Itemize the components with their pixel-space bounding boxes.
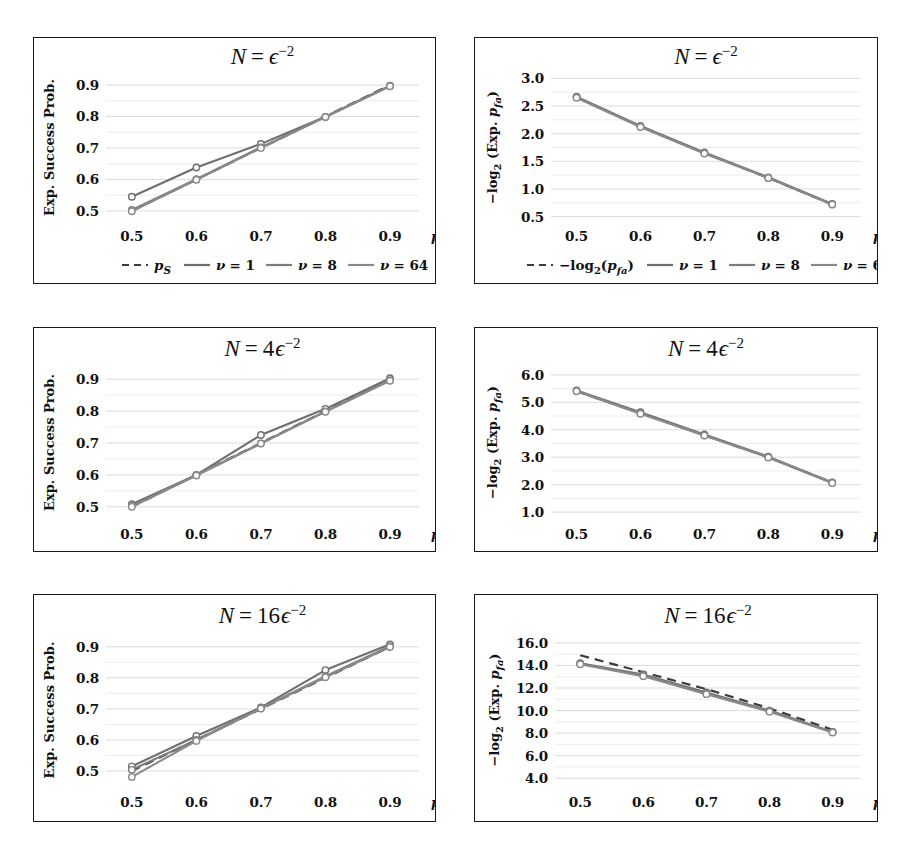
x-tick-label: 0.5 — [565, 526, 588, 542]
y-tick-label: 0.8 — [76, 403, 99, 419]
legend-label: ν= 8 — [761, 257, 800, 273]
y-axis-label: −log2 (Exp. pfa) — [485, 386, 503, 499]
chart-success-4eps2: N=4ϵ−20.50.60.70.80.90.50.60.70.80.9pSEx… — [34, 328, 435, 551]
y-tick-label: 3.0 — [521, 449, 544, 465]
x-axis-label: pS — [873, 229, 877, 247]
x-tick-label: 0.9 — [821, 228, 844, 244]
x-tick-label: 0.7 — [693, 228, 716, 244]
chart-pfa-16eps2: N=16ϵ−24.06.08.010.012.014.016.00.50.60.… — [475, 595, 877, 821]
series-64 — [580, 664, 832, 732]
x-tick-label: 0.8 — [757, 228, 780, 244]
x-tick-label: 0.9 — [821, 526, 844, 542]
y-tick-label: 8.0 — [525, 725, 548, 741]
x-tick-label: 0.8 — [758, 794, 781, 810]
data-point-marker — [637, 411, 643, 417]
x-tick-label: 0.5 — [120, 526, 143, 542]
y-tick-label: 0.5 — [76, 499, 99, 515]
panel-title: N=16ϵ−2 — [218, 602, 307, 628]
y-tick-label: 2.0 — [521, 126, 544, 142]
y-tick-label: 0.5 — [76, 203, 99, 219]
y-tick-label: 5.0 — [521, 394, 544, 410]
x-tick-label: 0.6 — [185, 794, 208, 810]
data-point-marker — [640, 673, 646, 679]
data-point-marker — [387, 644, 393, 650]
x-tick-label: 0.8 — [314, 794, 337, 810]
y-tick-label: 0.9 — [76, 639, 99, 655]
panel-title: N=ϵ−2 — [230, 43, 295, 69]
y-axis-label: Exp. Success Prob. — [42, 642, 57, 779]
panel-success-16eps2: N=16ϵ−20.50.60.70.80.90.50.60.70.80.9pSE… — [33, 594, 436, 822]
data-point-marker — [129, 208, 135, 214]
x-tick-label: 0.5 — [569, 794, 592, 810]
y-tick-label: 16.0 — [516, 635, 548, 651]
chart-legend: −log2(pfa)ν= 1ν= 8ν= 64 — [527, 257, 877, 276]
y-tick-label: 4.0 — [525, 770, 548, 786]
data-point-marker — [573, 388, 579, 394]
x-axis-label: pS — [873, 527, 877, 545]
data-point-marker — [258, 432, 264, 438]
y-tick-label: 2.0 — [521, 477, 544, 493]
y-tick-label: 10.0 — [516, 703, 548, 719]
data-point-marker — [129, 767, 135, 773]
legend-label: ν= 1 — [216, 257, 255, 273]
x-tick-label: 0.7 — [249, 228, 272, 244]
x-axis-label: pS — [431, 229, 435, 247]
data-point-marker — [193, 738, 199, 744]
y-tick-label: 0.8 — [76, 670, 99, 686]
data-point-marker — [129, 504, 135, 510]
data-point-marker — [193, 472, 199, 478]
data-point-marker — [387, 83, 393, 89]
x-tick-label: 0.6 — [632, 794, 655, 810]
x-tick-label: 0.6 — [629, 228, 652, 244]
y-axis-label: Exp. Success Prob. — [42, 374, 57, 511]
data-point-marker — [387, 378, 393, 384]
x-tick-label: 0.9 — [821, 794, 844, 810]
y-tick-label: 2.5 — [521, 98, 544, 114]
y-tick-label: 0.9 — [76, 371, 99, 387]
data-point-marker — [765, 454, 771, 460]
y-tick-label: 0.7 — [76, 701, 99, 717]
chart-success-16eps2: N=16ϵ−20.50.60.70.80.90.50.60.70.80.9pSE… — [34, 595, 435, 821]
y-tick-label: 0.9 — [76, 77, 99, 93]
data-point-marker — [766, 708, 772, 714]
y-tick-label: 0.5 — [521, 209, 544, 225]
x-axis-label: pS — [873, 795, 877, 813]
data-point-marker — [193, 177, 199, 183]
x-tick-label: 0.5 — [120, 228, 143, 244]
data-point-marker — [322, 409, 328, 415]
data-point-marker — [129, 194, 135, 200]
data-point-marker — [829, 729, 835, 735]
legend-label: pS — [154, 257, 171, 276]
y-tick-label: 6.0 — [525, 748, 548, 764]
x-tick-label: 0.8 — [314, 526, 337, 542]
legend-label: ν= 64 — [843, 257, 877, 273]
data-point-marker — [258, 705, 264, 711]
y-tick-label: 12.0 — [516, 680, 548, 696]
legend-label: ν= 8 — [298, 257, 337, 273]
data-point-marker — [258, 440, 264, 446]
y-axis-label: Exp. Success Prob. — [42, 79, 57, 216]
panel-title: N=ϵ−2 — [673, 43, 738, 69]
y-tick-label: 1.0 — [521, 181, 544, 197]
y-tick-label: 1.0 — [521, 504, 544, 520]
chart-pfa-eps2: N=ϵ−20.51.01.52.02.53.00.50.60.70.80.9pS… — [475, 38, 877, 283]
data-point-marker — [637, 124, 643, 130]
panel-success-4eps2: N=4ϵ−20.50.60.70.80.90.50.60.70.80.9pSEx… — [33, 327, 436, 552]
data-point-marker — [322, 114, 328, 120]
x-tick-label: 0.7 — [693, 526, 716, 542]
chart-pfa-4eps2: N=4ϵ−21.02.03.04.05.06.00.50.60.70.80.9p… — [475, 328, 877, 551]
panel-title: N=4ϵ−2 — [223, 335, 300, 361]
y-axis-label: −log2 (Exp. pfa) — [485, 91, 503, 204]
data-point-marker — [703, 691, 709, 697]
y-tick-label: 0.5 — [76, 763, 99, 779]
x-tick-label: 0.7 — [249, 794, 272, 810]
legend-label: ν= 64 — [380, 257, 428, 273]
data-point-marker — [701, 150, 707, 156]
data-point-marker — [701, 432, 707, 438]
data-point-marker — [765, 175, 771, 181]
x-tick-label: 0.5 — [120, 794, 143, 810]
y-tick-label: 0.8 — [76, 108, 99, 124]
y-tick-label: 3.0 — [521, 70, 544, 86]
y-tick-label: 0.6 — [76, 171, 99, 187]
chart-success-eps2: N=ϵ−20.50.60.70.80.90.50.60.70.80.9pSExp… — [34, 38, 435, 283]
